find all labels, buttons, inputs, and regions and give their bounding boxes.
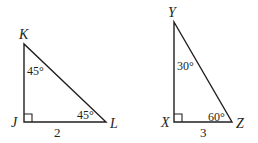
vertex-label-j: J [11,115,18,130]
right-angle-marker-x [174,114,182,122]
vertex-label-x: X [160,115,170,130]
vertex-label-l: L [109,116,118,131]
angle-label-y: 30° [177,59,194,73]
side-length-jl: 2 [54,125,61,140]
vertex-label-z: Z [236,116,244,131]
angle-label-z: 60° [208,110,225,124]
vertex-label-y: Y [168,5,178,20]
side-length-xz: 3 [200,125,207,140]
vertex-label-k: K [18,27,29,42]
triangle-xyz: Y X Z 30° 60° 3 [160,5,244,140]
diagram-canvas: K J L 45° 45° 2 Y X Z 30° 60° 3 [0,0,258,143]
triangle-jkl: K J L 45° 45° 2 [11,27,118,140]
right-angle-marker-j [24,114,32,122]
triangles-figure: K J L 45° 45° 2 Y X Z 30° 60° 3 [0,0,258,143]
angle-label-l: 45° [77,108,94,122]
angle-label-k: 45° [27,64,44,78]
